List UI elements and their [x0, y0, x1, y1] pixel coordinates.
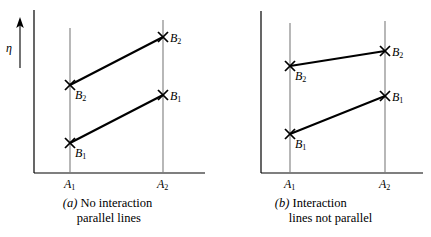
panel-a-tick-label-a2: A2 [157, 178, 168, 190]
panel-b-caption-line2: lines not parallel [275, 211, 372, 226]
panel-b-point-label-b1-a2-sub: 1 [399, 96, 403, 105]
panel-b-caption-line1: Interaction [293, 196, 347, 210]
panel-a-tick-label-a1-sub: 1 [71, 183, 75, 192]
panel-a-caption-letter: (a) [63, 196, 78, 210]
interaction-plot-figure: η B2 B2 B1 B1 A1 A2 (a) No interaction p… [0, 0, 431, 237]
panel-a-point-label-b1-a1-sub: 1 [82, 152, 86, 161]
panel-b-point-label-b2-a1: B2 [295, 70, 306, 82]
panel-b-caption: (b) Interaction lines not parallel [216, 196, 431, 226]
panel-a-point-label-b2-a2: B2 [170, 32, 181, 44]
panel-a-point-label-b1-a1: B1 [75, 147, 86, 159]
panel-b-markers [285, 46, 390, 139]
panel-b-caption-letter: (b) [275, 196, 290, 210]
panel-a-point-label-b2-a1-sub: 2 [82, 94, 86, 103]
panel-a-plot-area [0, 0, 215, 196]
panel-b-tick-label-a1-sub: 1 [291, 183, 295, 192]
panel-b-point-label-b2-a2-sub: 2 [399, 51, 403, 60]
panel-a-point-label-b2-a2-sub: 2 [177, 37, 181, 46]
panel-a-eta-label: η [6, 42, 12, 54]
panel-b-point-label-b2-a2: B2 [392, 46, 403, 58]
panel-b-point-label-b1-a1: B1 [295, 138, 306, 150]
panel-b-point-label-b1-a1-sub: 1 [302, 143, 306, 152]
panel-a-no-interaction: η B2 B2 B1 B1 A1 A2 (a) No interaction p… [0, 0, 215, 237]
panel-b-series-b1-line [290, 96, 385, 134]
panel-b-series-b2-line [290, 51, 385, 66]
panel-a-point-label-b1-a2-sub: 1 [177, 95, 181, 104]
panel-a-point-label-b1-a2: B1 [170, 90, 181, 102]
panel-a-tick-label-a2-sub: 2 [164, 183, 168, 192]
panel-a-series-b2-line [70, 37, 163, 85]
panel-a-caption-line2: parallel lines [63, 211, 153, 226]
panel-b-point-label-b1-a2: B1 [392, 91, 403, 103]
panel-a-point-label-b2-a1: B2 [75, 89, 86, 101]
panel-b-interaction: B2 B2 B1 B1 A1 A2 (b) Interaction lines … [216, 0, 431, 237]
panel-a-tick-label-a1: A1 [64, 178, 75, 190]
panel-a-caption: (a) No interaction parallel lines [0, 196, 215, 226]
panel-b-tick-label-a1: A1 [284, 178, 295, 190]
panel-b-point-label-b2-a1-sub: 2 [302, 75, 306, 84]
panel-b-tick-label-a2-sub: 2 [386, 183, 390, 192]
panel-a-caption-line1: No interaction [80, 196, 152, 210]
panel-b-tick-label-a2: A2 [379, 178, 390, 190]
